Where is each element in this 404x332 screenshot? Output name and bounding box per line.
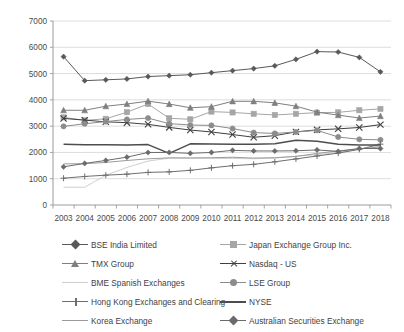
plot-svg: 0100020003000400050006000700020032004200…	[0, 0, 404, 230]
y-axis-tick-label: 2000	[29, 148, 48, 157]
x-axis-tick-label: 2013	[266, 214, 285, 223]
data-point-square	[61, 115, 66, 120]
x-axis-tick-label: 2007	[139, 214, 158, 223]
legend-key-line-icon	[62, 315, 88, 326]
data-point-diamond	[293, 57, 298, 62]
data-point-circle	[188, 122, 193, 127]
legend-item-lse-group[interactable]: LSE Group	[181, 277, 404, 288]
legend-item-bse-india-limited[interactable]: BSE India Limited	[0, 239, 181, 250]
legend-key-plus-icon	[62, 296, 88, 307]
x-axis-tick-label: 2006	[118, 214, 137, 223]
data-point-circle	[209, 123, 214, 128]
series-tmx-group	[61, 98, 384, 120]
y-axis-tick-label: 4000	[29, 96, 48, 105]
legend-key-line	[220, 301, 246, 303]
data-point-diamond	[61, 164, 66, 169]
legend-key-line-icon	[62, 277, 88, 288]
legend-marker-diamond-icon	[71, 239, 81, 249]
legend-marker-plus-icon	[72, 298, 79, 305]
x-axis-tick-label: 2014	[287, 214, 306, 223]
x-axis-tick-label: 2018	[371, 214, 390, 223]
y-axis-tick-label: 0	[42, 201, 47, 210]
legend-item-australian-securities-exchange[interactable]: Australian Securities Exchange	[181, 315, 404, 326]
data-point-diamond	[145, 150, 150, 155]
data-point-square	[188, 117, 193, 122]
y-axis-tick-label: 5000	[29, 70, 48, 79]
data-point-square	[124, 110, 129, 115]
legend-key-line	[62, 320, 88, 321]
line-chart: 0100020003000400050006000700020032004200…	[0, 0, 404, 332]
legend-key-square-icon	[220, 239, 246, 250]
data-point-square	[209, 109, 214, 114]
legend-item-nasdaq-us[interactable]: Nasdaq - US	[181, 258, 404, 269]
series-line	[64, 147, 381, 164]
legend-label: Australian Securities Exchange	[249, 316, 364, 326]
x-axis-tick-label: 2015	[308, 214, 327, 223]
chart-legend: BSE India LimitedJapan Exchange Group In…	[0, 232, 404, 332]
x-axis-tick-label: 2008	[160, 214, 179, 223]
legend-item-nyse[interactable]: NYSE	[181, 296, 404, 307]
legend-marker-x-icon	[230, 260, 237, 267]
data-point-diamond	[103, 77, 108, 82]
data-point-diamond	[188, 72, 193, 77]
data-point-circle	[61, 124, 66, 129]
legend-label: Korea Exchange	[91, 316, 152, 326]
legend-key-triangle-icon	[62, 258, 88, 269]
data-point-square	[251, 111, 256, 116]
legend-item-japan-exchange-group-inc[interactable]: Japan Exchange Group Inc.	[181, 239, 404, 250]
data-point-square	[230, 110, 235, 115]
legend-key-x-icon	[220, 258, 246, 269]
data-point-circle	[145, 115, 150, 120]
data-point-diamond	[209, 150, 214, 155]
data-point-circle	[230, 126, 235, 131]
data-point-circle	[103, 119, 108, 124]
data-point-diamond	[336, 49, 341, 54]
data-point-diamond	[230, 68, 235, 73]
data-point-circle	[314, 128, 319, 133]
legend-label: BME Spanish Exchanges	[91, 278, 185, 288]
legend-key-circle-icon	[220, 277, 246, 288]
x-axis-tick-label: 2004	[76, 214, 95, 223]
series-line	[64, 104, 381, 120]
x-axis-tick-label: 2003	[54, 214, 73, 223]
series-bse-india-limited	[61, 49, 383, 83]
data-point-diamond	[188, 151, 193, 156]
data-point-square	[293, 111, 298, 116]
data-point-square	[378, 106, 383, 111]
legend-label: Japan Exchange Group Inc.	[249, 240, 352, 250]
data-point-circle	[293, 129, 298, 134]
data-point-diamond	[314, 147, 319, 152]
data-point-diamond	[314, 49, 319, 54]
x-axis-tick-label: 2012	[245, 214, 264, 223]
legend-label: Nasdaq - US	[249, 259, 297, 269]
x-axis-tick-label: 2016	[329, 214, 348, 223]
legend-item-bme-spanish-exchanges[interactable]: BME Spanish Exchanges	[0, 277, 181, 288]
legend-key-diamond-icon	[62, 239, 88, 250]
y-axis-tick-label: 1000	[29, 175, 48, 184]
data-point-diamond	[272, 63, 277, 68]
legend-item-korea-exchange[interactable]: Korea Exchange	[0, 315, 181, 326]
legend-item-hong-kong-exchanges-and-clearing[interactable]: Hong Kong Exchanges and Clearing	[0, 296, 181, 307]
series-korea-exchange	[64, 147, 381, 164]
data-point-diamond	[251, 66, 256, 71]
series-line	[64, 101, 381, 118]
legend-key-line	[62, 282, 88, 283]
plot-area: 0100020003000400050006000700020032004200…	[0, 0, 404, 230]
series-line	[64, 52, 381, 81]
legend-label: LSE Group	[249, 278, 290, 288]
x-axis-tick-label: 2010	[202, 214, 221, 223]
legend-item-tmx-group[interactable]: TMX Group	[0, 258, 181, 269]
data-point-circle	[124, 117, 129, 122]
x-axis-tick-label: 2005	[97, 214, 116, 223]
y-axis-tick-label: 6000	[29, 43, 48, 52]
data-point-diamond	[82, 161, 87, 166]
data-point-circle	[167, 121, 172, 126]
y-axis-tick-label: 7000	[29, 17, 48, 26]
data-point-circle	[357, 137, 362, 142]
data-point-diamond	[209, 70, 214, 75]
legend-label: NYSE	[249, 297, 272, 307]
data-point-diamond	[167, 150, 172, 155]
data-point-square	[167, 116, 172, 121]
data-point-diamond	[124, 155, 129, 160]
data-point-circle	[82, 121, 87, 126]
